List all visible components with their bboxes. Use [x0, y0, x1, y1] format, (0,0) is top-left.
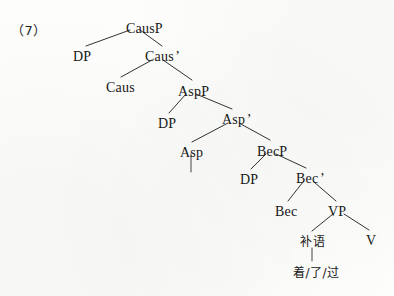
tree-node-vp: VP — [328, 205, 346, 219]
tree-node-caus: Caus — [106, 81, 135, 95]
tree-node-label: DP — [73, 49, 91, 64]
tree-node-becp: BecP — [257, 145, 287, 159]
tree-node-label: DP — [158, 116, 176, 131]
tree-branch-line — [86, 30, 130, 46]
tree-node-causp: CausP — [126, 22, 163, 36]
tree-node-label: 补语 — [300, 235, 325, 249]
tree-node-v: V — [366, 234, 376, 248]
bar-level-prime-mark: ’ — [174, 49, 180, 64]
tree-node-label: VP — [328, 204, 346, 219]
tree-node-label: Caus — [106, 80, 135, 95]
tree-node-label: Asp — [222, 112, 245, 127]
tree-node-label: DP — [240, 172, 258, 187]
figure-canvas: （7） CausPDPCaus’CausAspPDPAsp’AspBecPDPB… — [0, 0, 394, 296]
tree-node-buyu: 补语 — [300, 236, 325, 248]
tree-node-aspp: AspP — [178, 85, 209, 99]
tree-node-label: AspP — [178, 84, 209, 99]
tree-node-label: 着/了/过 — [293, 266, 340, 280]
tree-node-label: Bec — [275, 204, 297, 219]
tree-node-aspect: 着/了/过 — [293, 267, 340, 279]
tree-node-becbar: Bec’ — [296, 172, 325, 186]
tree-node-causbar: Caus’ — [145, 50, 180, 64]
tree-node-dp1: DP — [73, 50, 91, 64]
tree-node-aspbar: Asp’ — [222, 113, 252, 127]
tree-branch-line — [344, 214, 369, 230]
bar-level-prime-mark: ’ — [245, 112, 251, 127]
tree-node-dp2: DP — [158, 117, 176, 131]
tree-node-label: CausP — [126, 21, 163, 36]
tree-node-label: V — [366, 233, 376, 248]
tree-node-dp3: DP — [240, 173, 258, 187]
tree-node-label: Caus — [145, 49, 174, 64]
tree-node-label: BecP — [257, 144, 287, 159]
tree-node-bec: Bec — [275, 205, 297, 219]
tree-node-label: Asp — [180, 145, 203, 160]
bar-level-prime-mark: ’ — [318, 171, 324, 186]
tree-node-label: Bec — [296, 171, 318, 186]
tree-node-asp: Asp — [180, 146, 203, 160]
